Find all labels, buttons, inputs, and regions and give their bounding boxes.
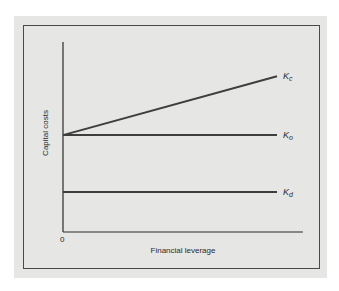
series-label-kd: Kd (283, 187, 294, 198)
series-label-ko: Ko (283, 130, 293, 141)
x-tick-label: 0 (60, 235, 65, 244)
x-axis-label: Financial leverage (151, 246, 216, 255)
y-axis-label: Capital costs (41, 110, 50, 156)
series-label-kc: Kc (283, 71, 293, 82)
chart-svg: KcKoKd 0 Financial leverage Capital cost… (0, 0, 339, 291)
series-line-kc (63, 76, 277, 135)
